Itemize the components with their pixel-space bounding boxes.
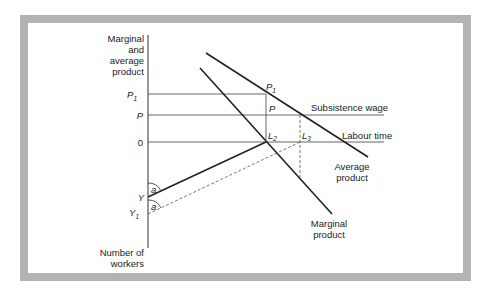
angle-label-a2: a — [151, 201, 156, 212]
marginal-product-label-line2: product — [313, 229, 345, 240]
average-product-label-line1: Average — [334, 161, 369, 172]
y1-to-l3-dashed-line — [148, 142, 300, 214]
subsistence-wage-label: Subsistence wage — [311, 102, 388, 113]
y-axis-label-line4: product — [112, 66, 144, 77]
x-axis-label-line2: workers — [110, 258, 145, 269]
y-to-l2-line — [148, 142, 266, 197]
average-product-label-line2: product — [336, 172, 368, 183]
angle-label-a1: a — [151, 184, 156, 195]
y-axis-label-line1: Marginal — [108, 33, 144, 44]
point-label-p: P — [269, 103, 276, 114]
tick-label-y: Y — [138, 192, 145, 203]
marginal-product-label-line1: Marginal — [311, 218, 347, 229]
tick-label-zero: 0 — [138, 137, 143, 148]
labour-time-label: Labour time — [342, 130, 392, 141]
tick-label-p1: P1 — [127, 89, 137, 102]
tick-label-y1: Y1 — [129, 207, 139, 220]
y-axis-label-line3: average — [110, 55, 144, 66]
diagram-canvas: Marginal and average product P1 P 0 Y Y1… — [0, 0, 484, 301]
x-axis-label-line1: Number of — [100, 247, 145, 258]
y-axis-label-line2: and — [128, 44, 144, 55]
point-label-l3: L3 — [302, 130, 311, 142]
point-label-l2: L2 — [268, 130, 277, 142]
tick-label-p: P — [137, 110, 144, 121]
